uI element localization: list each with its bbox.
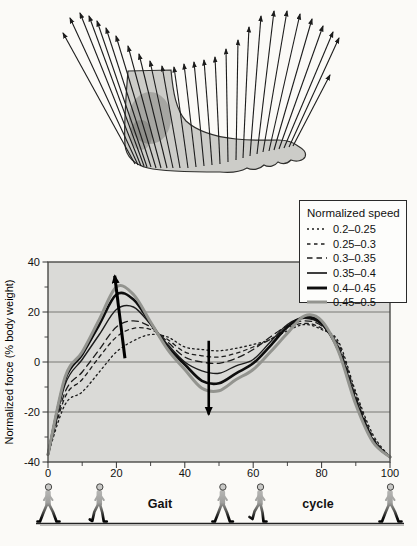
grf-vector	[274, 19, 312, 150]
grf-vector	[263, 11, 287, 152]
x-tick-label: 60	[247, 467, 259, 478]
legend-items: 0.2–0.250.25–0.30.3–0.350.35–0.40.4–0.45…	[306, 222, 402, 310]
legend-item: 0.25–0.3	[306, 237, 402, 252]
walker-head	[45, 484, 51, 490]
legend-item: 0.4–0.45	[306, 280, 402, 295]
foot-grf-diagram	[0, 0, 417, 190]
x-tick-label: 0	[45, 467, 51, 478]
legend-line-sample	[306, 298, 328, 306]
x-tick-label: 100	[381, 467, 399, 478]
legend-line-sample	[306, 269, 328, 277]
walking-figure	[250, 484, 267, 522]
legend-item: 0.3–0.35	[306, 251, 402, 266]
walker-head	[220, 484, 226, 490]
walker-head	[97, 484, 103, 490]
legend-item-label: 0.25–0.3	[333, 238, 376, 250]
gait-cycle-strip: Gait cycle	[0, 478, 417, 546]
y-axis-title: Normalized force (% body weight)	[3, 279, 15, 444]
cycle-label: cycle	[302, 497, 333, 511]
x-tick-label: 80	[315, 467, 327, 478]
grf-vector	[269, 14, 300, 151]
x-tick-label: 20	[110, 467, 122, 478]
y-tick-label: 40	[28, 256, 40, 268]
walking-figures	[38, 484, 402, 522]
walking-figure	[38, 484, 60, 522]
gait-label: Gait	[148, 497, 173, 511]
legend-item: 0.35–0.4	[306, 266, 402, 281]
chart-legend: Normalized speed 0.2–0.250.25–0.30.3–0.3…	[299, 200, 407, 303]
legend-item-label: 0.2–0.25	[333, 223, 376, 235]
legend-line-sample	[306, 225, 328, 233]
legend-title: Normalized speed	[307, 207, 402, 219]
legend-item-label: 0.35–0.4	[333, 267, 376, 279]
x-tick-label: 40	[179, 467, 191, 478]
legend-line-sample	[306, 240, 328, 248]
y-tick-label: 0	[34, 356, 40, 368]
grf-vector	[63, 33, 135, 164]
y-tick-label: -40	[24, 456, 40, 468]
legend-item-label: 0.4–0.45	[333, 282, 376, 294]
legend-item-label: 0.45–0.5	[333, 296, 376, 308]
walker-head	[387, 484, 393, 490]
legend-line-sample	[306, 284, 328, 292]
walking-figure	[380, 484, 402, 522]
y-tick-label: -20	[24, 406, 40, 418]
grf-vector	[289, 38, 339, 147]
legend-item: 0.2–0.25	[306, 222, 402, 237]
walker-head	[257, 484, 263, 490]
grf-vector	[293, 75, 330, 146]
figure-root: 02040608010040200-20-40 Normalized force…	[0, 0, 417, 546]
y-tick-label: 20	[28, 306, 40, 318]
legend-item-label: 0.3–0.35	[333, 252, 376, 264]
walking-figure	[90, 484, 107, 522]
legend-item: 0.45–0.5	[306, 295, 402, 310]
walking-figure	[212, 484, 233, 522]
grf-vector	[243, 27, 249, 158]
legend-line-sample	[306, 254, 328, 262]
